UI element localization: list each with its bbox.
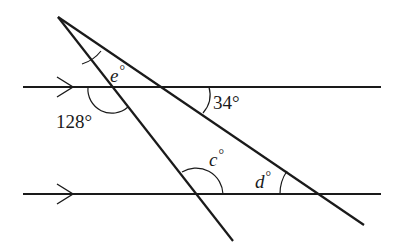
- angle-label-e: e°: [110, 63, 125, 86]
- angle-label-c: c°: [209, 147, 224, 170]
- geometry-diagram: e° 128° 34° c° d°: [0, 0, 400, 251]
- angle-arc-c: [182, 168, 223, 194]
- angle-arc-34: [203, 87, 210, 113]
- angle-arc-d: [280, 171, 287, 194]
- angle-label-128: 128°: [56, 111, 92, 132]
- angle-label-d: d°: [255, 169, 271, 192]
- angle-label-34: 34°: [213, 92, 240, 113]
